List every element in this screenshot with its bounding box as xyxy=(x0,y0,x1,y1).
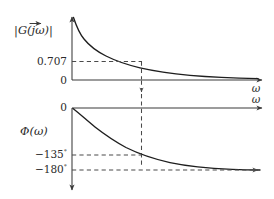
phase-tick-minus135: −135° xyxy=(35,148,67,160)
phase-tick-minus180-value: −180 xyxy=(35,163,64,175)
phase-x-axis-label: ω xyxy=(252,93,261,105)
magnitude-y-axis-label: |G(jω)| xyxy=(14,23,53,38)
magnitude-label-g: G xyxy=(18,23,27,37)
phase-tick-minus135-unit: ° xyxy=(64,148,67,156)
phase-tick-minus135-value: −135 xyxy=(35,148,64,160)
phase-tick-minus180-unit: ° xyxy=(64,163,67,171)
phase-curve xyxy=(73,109,260,171)
magnitude-curve xyxy=(74,18,259,79)
magnitude-label-bar-close: | xyxy=(49,23,53,38)
phase-tick-minus180: −180° xyxy=(35,163,67,175)
figure-canvas: 0.707 0 |G(jω)| ω 0 −135° −180° Φ(ω) xyxy=(0,0,274,199)
phase-y-axis-label: Φ(ω) xyxy=(20,124,48,138)
frequency-response-figure: 0.707 0 |G(jω)| ω 0 −135° −180° Φ(ω) xyxy=(0,0,274,199)
magnitude-tick-zero: 0 xyxy=(60,74,67,86)
phase-tick-zero: 0 xyxy=(60,101,67,113)
magnitude-tick-0707: 0.707 xyxy=(37,55,67,67)
